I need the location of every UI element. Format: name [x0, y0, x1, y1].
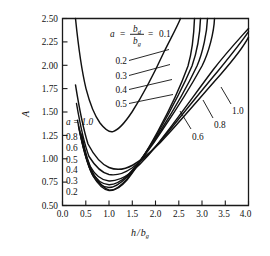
chart-svg: 0.50 0.75 1.00 1.25 1.50 1.75 2.00 2.25 … [0, 0, 270, 256]
annot-left-0.8: 0.8 [66, 132, 78, 142]
y-tick-label: 1.25 [42, 131, 59, 141]
x-axis-title-text: h/bg [131, 227, 150, 239]
plot-axes [63, 19, 249, 206]
x-axis-ticks [63, 201, 249, 206]
annot-left-a-equals: a = 1.0 [66, 117, 94, 127]
x-axis-title: h/bg [131, 227, 150, 239]
y-tick-label: 2.50 [42, 14, 59, 24]
leader-1.0-right [221, 87, 231, 104]
curves-group [76, 19, 249, 191]
annot-upper-0.5: 0.5 [115, 99, 127, 109]
leader-0.8 [203, 100, 213, 118]
annot-upper-0.4: 0.4 [115, 85, 127, 95]
annot-left-0.2: 0.2 [66, 187, 78, 197]
legend-param-a: a [110, 29, 115, 39]
upper-annotations: 0.2 0.3 0.4 0.5 [115, 56, 127, 109]
legend-value-0.1: 0.1 [159, 29, 171, 39]
x-tick-label: 1.5 [126, 209, 138, 219]
legend-equation: a = bd bg = 0.1 [110, 24, 171, 47]
x-tick-label: 2.5 [173, 209, 185, 219]
x-axis-num: h [131, 227, 136, 238]
y-tick-labels: 0.50 0.75 1.00 1.25 1.50 1.75 2.00 2.25 … [42, 14, 59, 211]
annot-left-0.4: 0.4 [66, 165, 78, 175]
annot-right-0.6: 0.6 [192, 132, 204, 142]
legend-numerator: bd [133, 24, 142, 35]
y-tick-label: 2.25 [42, 37, 59, 47]
annot-left-0.3: 0.3 [66, 176, 78, 186]
legend-equals-2: = [148, 29, 153, 39]
right-annotations: 1.0 0.8 0.6 [192, 106, 244, 142]
leader-0.5 [129, 95, 173, 104]
annot-upper-0.3: 0.3 [115, 71, 127, 81]
y-axis-title-text: A [20, 110, 31, 118]
x-tick-label: 2.0 [150, 209, 162, 219]
annot-upper-0.2: 0.2 [115, 56, 127, 66]
annot-right-1.0: 1.0 [232, 106, 244, 116]
x-axis-den-sub: g [146, 232, 150, 239]
y-tick-label: 2.00 [42, 61, 59, 71]
x-tick-label: 1.0 [103, 209, 115, 219]
x-tick-label: 4.0 [240, 209, 252, 219]
y-axis-title: A [20, 110, 31, 118]
x-tick-label: 0.5 [80, 209, 92, 219]
y-tick-label: 1.50 [42, 107, 59, 117]
x-tick-label: 0.0 [57, 209, 69, 219]
annot-right-0.8: 0.8 [214, 120, 226, 130]
y-tick-label: 0.75 [42, 177, 59, 187]
annot-left-0.5: 0.5 [66, 155, 78, 165]
x-tick-label: 3.0 [196, 209, 208, 219]
annot-left-0.6: 0.6 [66, 143, 78, 153]
y-tick-label: 1.00 [42, 154, 59, 164]
legend-denominator: bg [133, 36, 142, 47]
x-tick-labels: 0.0 0.5 1.0 1.5 2.0 2.5 3.0 3.5 4.0 [57, 209, 252, 219]
figure-container: 0.50 0.75 1.00 1.25 1.50 1.75 2.00 2.25 … [0, 0, 270, 256]
y-tick-label: 1.75 [42, 84, 59, 94]
leader-0.3 [129, 65, 170, 76]
legend-equals-1: = [120, 29, 125, 39]
plot-frame [63, 19, 249, 206]
curve-a-0.8 [77, 32, 249, 175]
x-tick-label: 3.5 [218, 209, 230, 219]
